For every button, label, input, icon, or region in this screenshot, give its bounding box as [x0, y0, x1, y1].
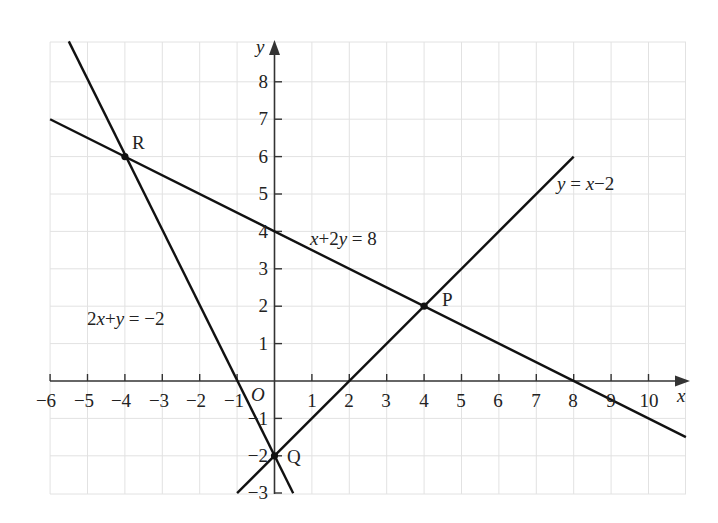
- svg-text:−1: −1: [248, 408, 268, 429]
- svg-text:−2: −2: [248, 445, 268, 466]
- svg-text:7: 7: [531, 390, 541, 411]
- svg-text:6: 6: [259, 146, 269, 167]
- svg-text:2: 2: [344, 390, 354, 411]
- grid: [50, 42, 686, 494]
- svg-text:9: 9: [606, 390, 616, 411]
- point-q-label: Q: [287, 446, 301, 467]
- line-x-plus-2y-eq-8: [50, 119, 686, 437]
- svg-text:2: 2: [259, 295, 269, 316]
- svg-text:−4: −4: [111, 390, 132, 411]
- svg-text:−3: −3: [248, 482, 268, 503]
- y-ticks: [275, 82, 283, 493]
- svg-text:8: 8: [568, 390, 578, 411]
- x-tick-labels: −6 −5 −4 −3 −2 −1 1 2 3 4 5 6 7 8 9 10: [36, 390, 659, 411]
- svg-text:−1: −1: [224, 390, 244, 411]
- equation-label-2x-plus-y-eq-neg-2: 2x+y = −2: [87, 308, 165, 329]
- svg-text:−6: −6: [36, 390, 56, 411]
- line-y-eq-x-minus-2: [237, 157, 574, 494]
- point-p-marker: [421, 303, 428, 310]
- svg-text:3: 3: [381, 390, 391, 411]
- svg-text:7: 7: [259, 108, 269, 129]
- point-r-marker: [121, 153, 128, 160]
- svg-text:10: 10: [640, 390, 659, 411]
- point-q-marker: [271, 452, 278, 459]
- svg-text:8: 8: [259, 71, 269, 92]
- svg-text:−2: −2: [186, 390, 206, 411]
- svg-text:4: 4: [259, 221, 269, 242]
- point-r-label: R: [132, 132, 145, 153]
- x-axis-label: x: [676, 385, 686, 406]
- equation-label-x-plus-2y-eq-8: x+2y = 8: [309, 228, 377, 249]
- svg-text:1: 1: [259, 333, 269, 354]
- svg-text:6: 6: [493, 390, 503, 411]
- axes: [50, 40, 690, 494]
- equation-label-y-eq-x-minus-2: y = x−2: [555, 173, 614, 194]
- origin-label: O: [251, 384, 265, 405]
- svg-text:1: 1: [307, 390, 317, 411]
- point-p-label: P: [442, 289, 453, 310]
- coordinate-graph: −6 −5 −4 −3 −2 −1 1 2 3 4 5 6 7 8 9 10 8…: [0, 0, 718, 523]
- svg-text:5: 5: [456, 390, 466, 411]
- svg-text:−3: −3: [149, 390, 169, 411]
- y-axis-label: y: [254, 36, 265, 57]
- svg-text:4: 4: [419, 390, 429, 411]
- plotted-lines: [50, 41, 686, 493]
- svg-text:5: 5: [259, 183, 269, 204]
- svg-text:−5: −5: [74, 390, 94, 411]
- svg-text:3: 3: [259, 258, 269, 279]
